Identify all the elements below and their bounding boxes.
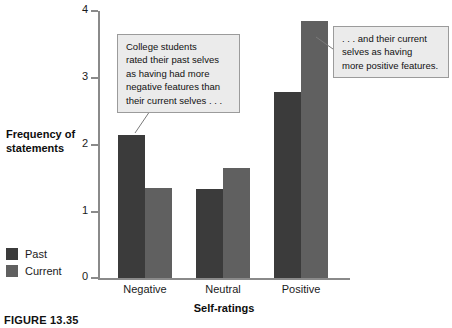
legend-item-past: Past xyxy=(6,248,62,260)
x-axis-line xyxy=(98,278,350,280)
callout-right-line-3: more positive features. xyxy=(342,59,441,72)
legend-label-current: Current xyxy=(25,266,62,277)
bar-neutral-past xyxy=(196,189,223,278)
bar-negative-past xyxy=(118,135,145,278)
legend-swatch-past-icon xyxy=(6,248,18,260)
callout-right-line-2: selves as having xyxy=(342,45,441,58)
callout-right: . . . and their current selves as having… xyxy=(333,26,449,78)
y-tick-1 xyxy=(91,211,98,213)
y-tick-3 xyxy=(91,77,98,79)
y-axis-title-line-1: Frequency of xyxy=(6,128,75,140)
callout-left: College students rated their past selves… xyxy=(117,34,240,113)
y-axis-title-line-2: statements xyxy=(6,142,64,154)
y-tick-4 xyxy=(91,10,98,12)
legend-label-past: Past xyxy=(25,249,47,260)
x-category-label-positive: Positive xyxy=(261,283,341,295)
x-axis-title: Self-ratings xyxy=(98,302,350,314)
callout-left-line-3: as having had more xyxy=(126,67,232,80)
bar-positive-past xyxy=(274,92,301,278)
x-category-label-neutral: Neutral xyxy=(183,283,263,295)
figure-caption: FIGURE 13.35 xyxy=(4,314,79,326)
y-tick-label-4: 4 xyxy=(66,4,88,15)
legend-item-current: Current xyxy=(6,265,62,277)
y-tick-label-1: 1 xyxy=(66,205,88,216)
bar-negative-current xyxy=(145,188,172,278)
callout-left-line-4: negative features than xyxy=(126,80,232,93)
y-tick-0 xyxy=(91,277,98,279)
figure-container: 4 3 2 1 0 Negative Neutral Positive Freq… xyxy=(0,0,452,328)
y-tick-label-0: 0 xyxy=(66,271,88,282)
callout-right-line-1: . . . and their current xyxy=(342,32,441,45)
x-category-label-negative: Negative xyxy=(105,283,185,295)
callout-left-line-2: rated their past selves xyxy=(126,53,232,66)
callout-left-line-1: College students xyxy=(126,40,232,53)
y-tick-label-3: 3 xyxy=(66,71,88,82)
bar-positive-current xyxy=(301,21,328,278)
y-axis-line xyxy=(98,11,100,279)
chart-legend: Past Current xyxy=(6,248,62,282)
bar-neutral-current xyxy=(223,168,250,278)
y-tick-2 xyxy=(91,144,98,146)
legend-swatch-current-icon xyxy=(6,265,18,277)
callout-left-line-5: their current selves . . . xyxy=(126,94,232,107)
y-axis-title: Frequency of statements xyxy=(6,128,90,156)
